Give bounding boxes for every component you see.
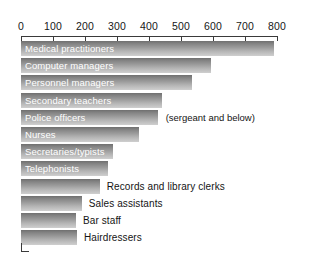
bar-row: Sales assistants (0, 196, 318, 211)
bar-row: Telephonists (0, 161, 318, 176)
bar-category-label: Telephonists (25, 162, 79, 175)
bar (21, 179, 100, 194)
axis-tick-label: 800 (268, 20, 286, 32)
bar-row: Police officers(sergeant and below) (0, 110, 318, 125)
bar-row: Secondary teachers (0, 93, 318, 108)
axis-tick-label: 600 (204, 20, 222, 32)
bar (21, 196, 82, 211)
bar-category-label: Bar staff (83, 214, 121, 227)
bar-category-label: Records and library clerks (107, 180, 225, 193)
bar-row: Secretaries/typists (0, 144, 318, 159)
bar-row: Records and library clerks (0, 179, 318, 194)
axis-tick-label: 700 (236, 20, 254, 32)
chart-x-axis: 0100200300400500600700800 (0, 0, 318, 40)
bar-row: Personnel managers (0, 75, 318, 90)
axis-baseline-foot-horizontal (21, 251, 29, 252)
axis-tick-label: 500 (172, 20, 190, 32)
bar-row: Medical practitioners (0, 41, 318, 56)
bar-category-label: Secondary teachers (25, 94, 111, 107)
bar-category-label: Police officers (25, 111, 85, 124)
chart-plot-area: Medical practitionersComputer managersPe… (0, 41, 318, 253)
bar-row: Computer managers (0, 58, 318, 73)
bar-row: Bar staff (0, 213, 318, 228)
bar-row: Nurses (0, 127, 318, 142)
bar-category-label: Medical practitioners (25, 42, 114, 55)
axis-tick-label: 200 (76, 20, 94, 32)
bar-category-label: Computer managers (25, 59, 113, 72)
bar-row: Hairdressers (0, 230, 318, 245)
bar-chart: 0100200300400500600700800 Medical practi… (0, 0, 318, 268)
bar-category-label: Secretaries/typists (25, 145, 105, 158)
axis-tick-label: 100 (44, 20, 62, 32)
bar-category-label: Personnel managers (25, 76, 114, 89)
bar-category-label: Hairdressers (84, 231, 142, 244)
bar (21, 213, 76, 228)
bar-category-label: Nurses (25, 128, 56, 141)
bar (21, 230, 77, 245)
axis-tick-label: 0 (18, 20, 24, 32)
axis-tick-label: 300 (108, 20, 126, 32)
bar-category-label: Sales assistants (89, 197, 163, 210)
axis-tick-label: 400 (140, 20, 158, 32)
bar-annotation: (sergeant and below) (166, 111, 255, 124)
